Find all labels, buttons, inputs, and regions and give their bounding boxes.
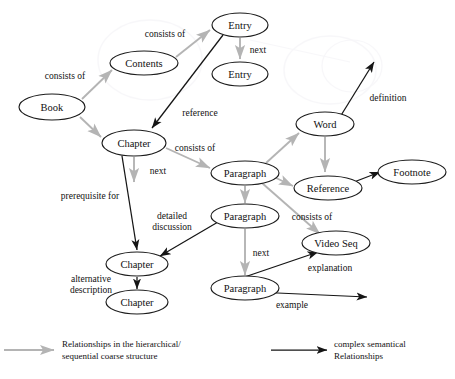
node-paragraph3[interactable]: Paragraph bbox=[211, 276, 279, 300]
node-label-chapter3: Chapter bbox=[120, 297, 154, 308]
node-label-paragraph3: Paragraph bbox=[224, 283, 267, 294]
node-label-chapter2: Chapter bbox=[120, 259, 154, 270]
node-footnote[interactable]: Footnote bbox=[378, 160, 446, 184]
edge-reference-footnote bbox=[354, 172, 380, 182]
edge-book-chapter1 bbox=[80, 117, 101, 137]
edge-label-book-contents: consists of bbox=[45, 71, 86, 81]
edge-book-contents bbox=[82, 70, 112, 99]
edge-label-chapter2-chapter3: alternativedescription bbox=[70, 274, 112, 295]
edge-paragraph1-reference bbox=[274, 177, 293, 186]
edge-label-chapter1-next: next bbox=[150, 166, 167, 176]
edge-label-entry1-entry2: next bbox=[250, 45, 267, 55]
edge-label-chapter1-paragraph1: consists of bbox=[175, 143, 216, 153]
edge-label-entry1-chapter1: reference bbox=[182, 108, 217, 118]
edge-label-paragraph2-chapter2: detaileddiscussion bbox=[152, 211, 192, 232]
diagram-canvas: consists ofconsists ofnextreferenceconsi… bbox=[0, 0, 455, 379]
node-label-entry2: Entry bbox=[228, 69, 252, 80]
edge-label-paragraph2-paragraph3: next bbox=[253, 248, 270, 258]
node-label-reference: Reference bbox=[307, 183, 350, 194]
node-label-entry1: Entry bbox=[228, 20, 252, 31]
node-label-videoseq: Video Seq bbox=[314, 238, 358, 249]
node-entry2[interactable]: Entry bbox=[212, 62, 268, 86]
node-layer: BookContentsEntryEntryChapterParagraphWo… bbox=[19, 13, 446, 314]
node-chapter1[interactable]: Chapter bbox=[102, 130, 166, 156]
node-paragraph2[interactable]: Paragraph bbox=[211, 204, 279, 228]
node-label-word: Word bbox=[313, 119, 337, 130]
node-chapter3[interactable]: Chapter bbox=[106, 290, 168, 314]
legend-coarse-text: Relationships in the hierarchical/sequen… bbox=[62, 339, 181, 361]
node-word[interactable]: Word bbox=[296, 112, 354, 136]
node-book[interactable]: Book bbox=[19, 94, 85, 120]
edge-label-paragraph3-videoseq: explanation bbox=[308, 263, 353, 273]
node-reference[interactable]: Reference bbox=[294, 176, 362, 200]
edge-label-paragraph1-videoseq: consists of bbox=[292, 212, 333, 222]
node-label-book: Book bbox=[41, 102, 65, 113]
legend-semantic: complex semanticalRelationships bbox=[271, 339, 406, 361]
legend-coarse: Relationships in the hierarchical/sequen… bbox=[4, 339, 181, 361]
node-chapter2[interactable]: Chapter bbox=[106, 252, 168, 276]
edge-label-word-definition: definition bbox=[370, 93, 407, 103]
legend-layer: Relationships in the hierarchical/sequen… bbox=[4, 339, 406, 361]
legend-semantic-text: complex semanticalRelationships bbox=[334, 339, 406, 361]
edge-word-definition bbox=[340, 62, 374, 117]
edge-paragraph1-word bbox=[266, 133, 299, 163]
node-label-footnote: Footnote bbox=[393, 167, 431, 178]
edge-label-paragraph3-example: example bbox=[276, 300, 308, 310]
node-label-contents: Contents bbox=[125, 58, 162, 69]
node-contents[interactable]: Contents bbox=[110, 51, 178, 75]
node-label-chapter1: Chapter bbox=[117, 138, 151, 149]
node-label-paragraph2: Paragraph bbox=[224, 211, 267, 222]
node-videoseq[interactable]: Video Seq bbox=[302, 231, 370, 255]
relationship-graph: consists ofconsists ofnextreferenceconsi… bbox=[0, 0, 455, 379]
node-entry1[interactable]: Entry bbox=[212, 13, 268, 37]
node-label-paragraph1: Paragraph bbox=[224, 168, 267, 179]
edge-label-contents-entry1: consists of bbox=[145, 29, 186, 39]
edge-label-chapter1-chapter2: prerequisite for bbox=[61, 191, 120, 201]
node-paragraph1[interactable]: Paragraph bbox=[211, 161, 279, 185]
